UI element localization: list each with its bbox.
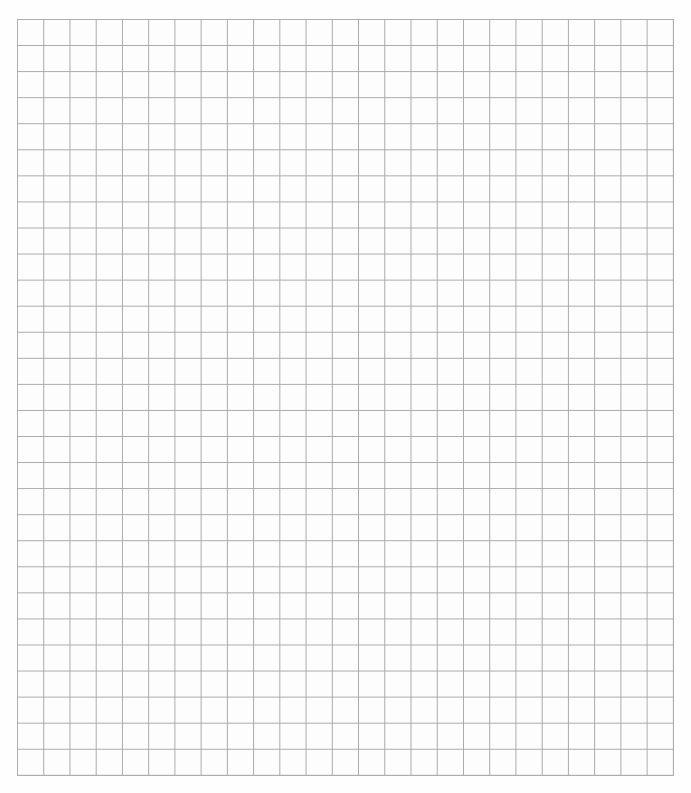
grid-area — [17, 19, 674, 776]
graph-paper-page — [0, 0, 691, 793]
